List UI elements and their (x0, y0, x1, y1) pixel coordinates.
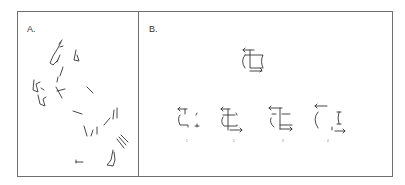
option-1-label: 1 (186, 139, 188, 143)
option-4-label: 4 (327, 139, 329, 143)
option-3-label: 3 (282, 139, 284, 143)
answer-option-4[interactable] (0, 0, 405, 185)
option-2-label: 2 (233, 139, 235, 143)
